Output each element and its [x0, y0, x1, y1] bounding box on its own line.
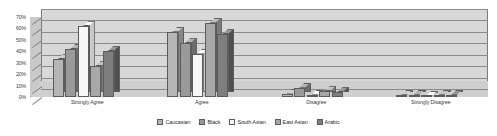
- y-axis-tick-label: 40%: [16, 48, 26, 54]
- legend-swatch: [157, 119, 163, 125]
- gridline: [41, 55, 488, 56]
- gridline: [41, 20, 488, 21]
- gridline: [41, 9, 488, 10]
- legend-swatch: [275, 119, 281, 125]
- gridline: [41, 32, 488, 33]
- chart-legend: CaucasianBlackSouth AsianEast AsianArabi…: [0, 119, 497, 125]
- legend-item[interactable]: Caucasian: [157, 119, 190, 125]
- y-axis-tick-label: 60%: [16, 25, 26, 31]
- plot-area: [30, 9, 488, 97]
- y-axis-tick-label: 30%: [16, 60, 26, 66]
- legend-swatch: [199, 119, 205, 125]
- legend-swatch: [317, 119, 323, 125]
- legend-item[interactable]: South Asian: [229, 119, 265, 125]
- gridline: [41, 78, 488, 79]
- gridline: [41, 66, 488, 67]
- y-axis: 0%10%20%30%40%50%60%70%: [0, 9, 28, 97]
- legend-label: Caucasian: [165, 119, 190, 125]
- legend-label: East Asian: [283, 119, 308, 125]
- y-axis-tick-label: 50%: [16, 37, 26, 43]
- legend-label: Arabic: [325, 119, 340, 125]
- gridline: [41, 43, 488, 44]
- y-axis-tick-label: 0%: [19, 94, 26, 100]
- legend-item[interactable]: Black: [199, 119, 220, 125]
- bar-chart: 0%10%20%30%40%50%60%70% Strongly AgreeAg…: [0, 0, 497, 136]
- x-axis-category-label: Strongly Agree: [30, 99, 145, 105]
- legend-swatch: [229, 119, 235, 125]
- legend-item[interactable]: East Asian: [275, 119, 308, 125]
- legend-label: South Asian: [237, 119, 265, 125]
- legend-item[interactable]: Arabic: [317, 119, 340, 125]
- x-axis: Strongly AgreeAgreeDisagreeStrongly Disa…: [30, 99, 488, 111]
- x-axis-category-label: Disagree: [259, 99, 374, 105]
- y-axis-tick-label: 10%: [16, 83, 26, 89]
- legend-label: Black: [207, 119, 220, 125]
- x-axis-category-label: Strongly Disagree: [374, 99, 489, 105]
- y-axis-tick-label: 20%: [16, 71, 26, 77]
- gridline: [41, 89, 488, 90]
- x-axis-category-label: Agree: [145, 99, 260, 105]
- y-axis-tick-label: 70%: [16, 14, 26, 20]
